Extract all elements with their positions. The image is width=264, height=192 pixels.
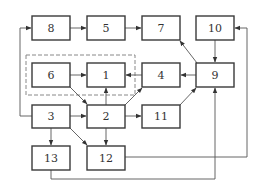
node-12-label: 12 bbox=[99, 152, 113, 165]
node-3-label: 3 bbox=[48, 110, 55, 123]
node-8: 8 bbox=[32, 16, 70, 40]
node-7-label: 7 bbox=[158, 22, 165, 35]
edge-12-10 bbox=[125, 28, 247, 157]
node-3: 3 bbox=[32, 105, 70, 128]
node-2: 2 bbox=[87, 105, 125, 128]
node-4-label: 4 bbox=[158, 69, 165, 82]
node-9-label: 9 bbox=[212, 69, 219, 82]
node-11: 11 bbox=[142, 105, 180, 128]
node-10: 10 bbox=[196, 16, 234, 40]
node-6-label: 6 bbox=[48, 69, 55, 82]
edge-3-12 bbox=[70, 128, 87, 145]
node-4: 4 bbox=[142, 63, 180, 87]
node-13-label: 13 bbox=[44, 152, 58, 165]
node-5-label: 5 bbox=[103, 22, 110, 35]
node-10-label: 10 bbox=[208, 22, 222, 35]
node-7: 7 bbox=[142, 16, 180, 40]
node-1-label: 1 bbox=[103, 69, 110, 82]
node-2-label: 2 bbox=[103, 110, 110, 123]
nodes: 8 5 7 10 6 1 4 9 bbox=[32, 16, 234, 170]
node-8-label: 8 bbox=[48, 22, 55, 35]
block-diagram: 8 5 7 10 6 1 4 9 bbox=[0, 0, 264, 192]
node-11-label: 11 bbox=[154, 110, 168, 123]
node-13: 13 bbox=[32, 146, 70, 170]
node-6: 6 bbox=[32, 63, 70, 87]
edge-2-4 bbox=[125, 88, 142, 105]
node-1: 1 bbox=[87, 63, 125, 87]
edge-9-7 bbox=[180, 41, 197, 63]
node-5: 5 bbox=[87, 16, 125, 40]
node-9: 9 bbox=[196, 63, 234, 87]
edge-3-8 bbox=[20, 28, 32, 116]
node-12: 12 bbox=[87, 146, 125, 170]
edge-11-9 bbox=[180, 88, 196, 105]
